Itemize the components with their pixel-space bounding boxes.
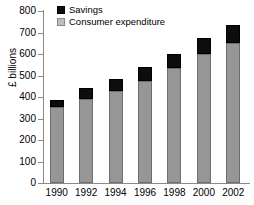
- bar-segment-savings: [109, 79, 123, 91]
- legend-label-savings: Savings: [69, 5, 103, 15]
- legend-item-savings: Savings: [57, 5, 165, 15]
- y-axis-tick: [38, 140, 44, 141]
- consumer-expenditure-swatch-icon: [57, 18, 65, 26]
- y-axis-tick-label: 600: [0, 49, 36, 59]
- bar-group: [109, 11, 123, 183]
- bar-segment-consumer-expenditure: [50, 107, 64, 183]
- y-axis-tick: [38, 54, 44, 55]
- y-axis-tick: [38, 33, 44, 34]
- y-axis-tick-label: 200: [0, 135, 36, 145]
- bar-group: [167, 11, 181, 183]
- bar-segment-consumer-expenditure: [226, 43, 240, 183]
- legend-item-consumer-expenditure: Consumer expenditure: [57, 17, 165, 27]
- y-axis-tick-label: 500: [0, 71, 36, 81]
- bar-segment-consumer-expenditure: [138, 81, 152, 183]
- bar-segment-consumer-expenditure: [167, 68, 181, 183]
- bar-segment-savings: [226, 25, 240, 43]
- bar-group: [138, 11, 152, 183]
- plot-area: [44, 11, 250, 183]
- y-axis-tick: [38, 76, 44, 77]
- bar-segment-savings: [197, 38, 211, 54]
- bar-segment-consumer-expenditure: [109, 91, 123, 183]
- bar-chart: £ billions 0100200300400500600700800 199…: [0, 0, 254, 205]
- bar-segment-savings: [50, 100, 64, 107]
- y-axis-tick: [38, 97, 44, 98]
- y-axis-tick: [38, 162, 44, 163]
- bar-segment-savings: [79, 88, 93, 99]
- y-axis-tick-label: 800: [0, 6, 36, 16]
- y-axis-tick: [38, 119, 44, 120]
- x-axis-line: [43, 183, 250, 184]
- bar-segment-savings: [167, 54, 181, 68]
- bar-group: [226, 11, 240, 183]
- bar-segment-consumer-expenditure: [79, 99, 93, 183]
- y-axis-tick: [38, 11, 44, 12]
- y-axis-tick-label: 0: [0, 178, 36, 188]
- bar-group: [79, 11, 93, 183]
- y-axis-labels: 0100200300400500600700800: [0, 0, 36, 205]
- y-axis-tick: [38, 183, 44, 184]
- y-axis-tick-label: 100: [0, 157, 36, 167]
- y-axis-tick-label: 300: [0, 114, 36, 124]
- bar-segment-consumer-expenditure: [197, 54, 211, 183]
- x-axis-tick-label: 2002: [216, 187, 250, 198]
- bar-group: [50, 11, 64, 183]
- legend-label-consumer-expenditure: Consumer expenditure: [69, 17, 165, 27]
- bar-segment-savings: [138, 67, 152, 81]
- y-axis-tick-label: 700: [0, 28, 36, 38]
- bar-group: [197, 11, 211, 183]
- savings-swatch-icon: [57, 6, 65, 14]
- y-axis-tick-label: 400: [0, 92, 36, 102]
- chart-legend: Savings Consumer expenditure: [57, 5, 165, 27]
